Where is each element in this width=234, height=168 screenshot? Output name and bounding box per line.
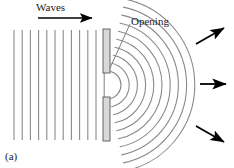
arrow-upper xyxy=(196,28,224,44)
panel-label: (a) xyxy=(5,150,17,162)
opening-label: Opening xyxy=(131,15,169,27)
circular-wavefront xyxy=(118,31,162,139)
circular-wavefront xyxy=(124,7,187,163)
diffraction-diagram-svg xyxy=(0,0,234,168)
arrow-lower xyxy=(196,126,224,142)
plane-wavefronts-group xyxy=(14,30,104,140)
barrier-lower-segment xyxy=(103,97,110,141)
circular-wavefront xyxy=(115,47,146,123)
diffraction-figure: Waves Opening (a) xyxy=(0,0,234,168)
circular-wavefront xyxy=(110,71,121,98)
waves-label: Waves xyxy=(36,1,65,13)
circular-wavefront xyxy=(112,63,130,106)
circular-wavefront xyxy=(117,39,154,131)
circular-wavefront xyxy=(113,55,137,114)
barrier-upper-segment xyxy=(103,29,110,73)
propagation-arrows-group xyxy=(196,28,226,142)
